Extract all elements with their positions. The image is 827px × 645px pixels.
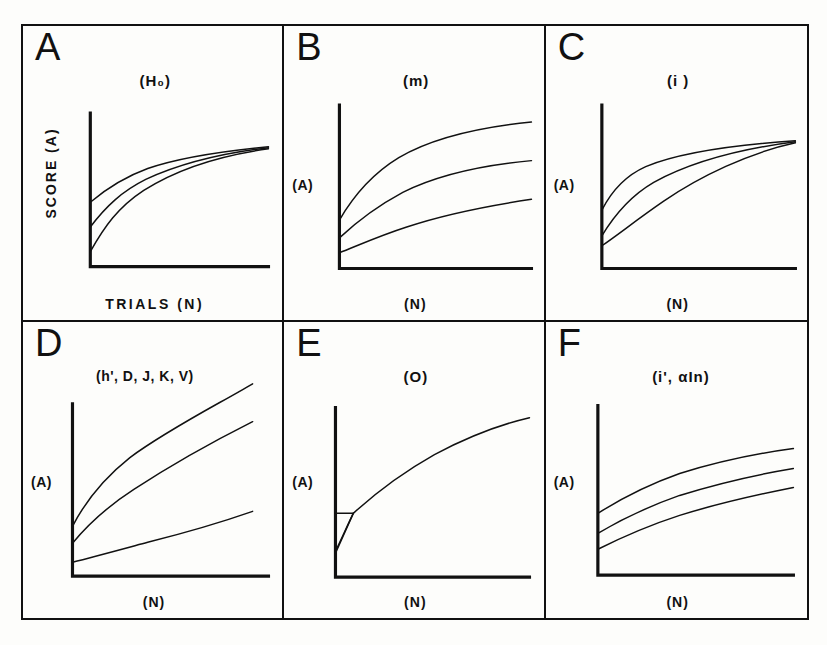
panel-c-parameter-label: (i ) [667,72,689,89]
panel-a-parameter-label: (H₀) [139,72,171,89]
panel-a: A (H₀) SCORE (A) TRIALS (N) [23,26,284,322]
panel-c-axes [602,105,796,268]
panel-f-curve-upper [598,449,794,514]
panel-d-letter: D [35,324,62,362]
panel-d-x-axis-label: (N) [143,594,165,610]
panel-e-x-axis-label: (N) [404,594,426,610]
panel-f-letter: F [558,324,581,362]
panel-e-parameter-label: (O) [404,368,429,385]
panel-f-curve-middle [598,469,794,534]
panel-b-x-axis-label: (N) [404,296,426,312]
panel-b-axes [340,105,532,268]
panel-f-parameter-label: (i', αIn) [652,368,710,385]
panel-c-curve-fast [602,141,796,210]
panel-f-curve-lower [598,487,794,549]
panel-e: E (O) (A) (N) [284,322,545,618]
panel-b-curve-upper [340,122,532,220]
panel-c-curve-medium [602,142,796,236]
panel-d-axes [72,404,268,576]
panel-e-y-axis-label: (A) [292,474,313,490]
panel-d: D (h', D, J, K, V) (A) (N) [23,322,284,618]
panel-c-x-axis-label: (N) [666,296,688,312]
figure-frame: A (H₀) SCORE (A) TRIALS (N) B (m) (A) (N… [21,24,809,620]
panel-a-curve-mid [90,148,268,227]
panel-b-curve-lower [340,199,532,252]
panel-d-curve-medium [72,422,252,544]
panel-e-branch-low [336,513,354,553]
panel-a-y-axis-label: SCORE (A) [43,127,59,218]
panel-c-curve-slow [602,143,796,246]
panel-c: C (i ) (A) (N) [546,26,807,322]
panel-b: B (m) (A) (N) [284,26,545,322]
panel-d-parameter-label: (h', D, J, K, V) [96,368,194,384]
panel-c-plot [546,26,807,320]
panel-b-y-axis-label: (A) [292,177,313,193]
panel-f-y-axis-label: (A) [554,474,575,490]
panel-a-curve-low [90,149,268,252]
panel-a-curve-high [90,147,268,202]
panel-b-curve-middle [340,161,532,238]
panel-b-letter: B [296,28,321,66]
panel-a-x-axis-label: TRIALS (N) [105,296,204,312]
panel-d-plot [23,322,282,618]
panel-d-curve-shallow [72,511,252,562]
panel-a-plot [23,26,282,320]
panel-d-curve-steep [72,384,252,527]
panel-c-letter: C [558,28,585,66]
panel-c-y-axis-label: (A) [554,177,575,193]
panel-e-branch-mid [336,513,354,551]
panel-a-axes [90,113,268,266]
panel-a-letter: A [35,28,60,66]
panel-f-x-axis-label: (N) [666,594,688,610]
panel-f-axes [598,406,794,575]
panel-d-y-axis-label: (A) [31,474,52,490]
panel-f-plot [546,322,807,618]
panel-e-letter: E [296,324,321,362]
panel-e-curve-merged [354,418,530,514]
panel-e-plot [284,322,543,618]
panel-grid: A (H₀) SCORE (A) TRIALS (N) B (m) (A) (N… [23,26,807,618]
panel-b-plot [284,26,543,320]
panel-b-parameter-label: (m) [403,72,429,89]
panel-e-axes [336,408,530,577]
panel-f: F (i', αIn) (A) (N) [546,322,807,618]
